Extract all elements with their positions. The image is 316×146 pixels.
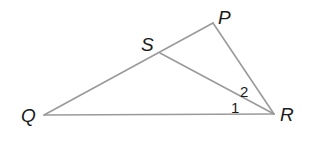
vertex-label-p: P — [218, 7, 231, 28]
angle-label-2: 2 — [240, 83, 248, 100]
point-label-s: S — [141, 34, 154, 55]
segment-sr — [160, 53, 274, 114]
triangle-diagram: P Q R S 1 2 — [0, 0, 316, 146]
angle-label-1: 1 — [231, 99, 239, 116]
segment-pr — [213, 23, 274, 114]
segment-qr — [44, 114, 274, 115]
vertex-label-q: Q — [21, 105, 36, 126]
vertex-label-r: R — [280, 104, 294, 125]
segment-qp — [44, 23, 213, 115]
